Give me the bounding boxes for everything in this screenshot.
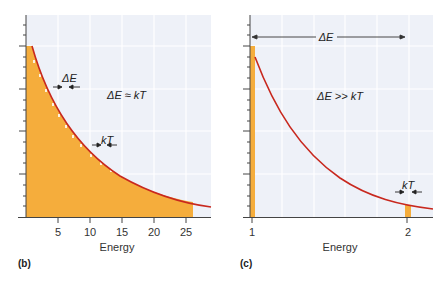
level-2-bar (405, 205, 411, 217)
x-tick-label: 15 (116, 226, 128, 238)
x-tick-label: 5 (55, 226, 61, 238)
x-axis-title: Energy (100, 241, 135, 253)
level-1-bar (250, 46, 255, 217)
figure: 5 10 15 20 25 Energy (b) ΔE ΔE ≈ kT kT (0, 0, 444, 283)
y-ticks (19, 25, 26, 206)
x-tick-label: 20 (148, 226, 160, 238)
y-ticks (243, 25, 250, 206)
relation-label: ΔE ≈ kT (106, 89, 147, 101)
delta-e-label: ΔE (61, 72, 77, 84)
panel-b: 5 10 15 20 25 Energy (b) ΔE ΔE ≈ kT kT (18, 15, 211, 269)
x-axis-title: Energy (323, 241, 358, 253)
delta-e-label: ΔE (318, 31, 334, 43)
panel-label: (c) (240, 258, 252, 269)
panel-c: 1 2 Energy (c) ΔE ΔE >> kT kT (240, 15, 433, 269)
x-tick-label: 2 (405, 226, 411, 238)
x-tick-label: 1 (249, 226, 255, 238)
x-tick-label: 25 (180, 226, 192, 238)
panel-label: (b) (18, 258, 31, 269)
kt-label: kT (402, 179, 416, 191)
relation-label: ΔE >> kT (316, 90, 364, 102)
x-tick-label: 10 (84, 226, 96, 238)
